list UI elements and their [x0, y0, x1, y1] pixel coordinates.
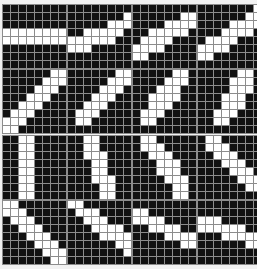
pattern-cell	[124, 160, 131, 167]
pattern-cell	[68, 110, 75, 117]
pattern-cell	[133, 217, 140, 224]
pattern-cell	[189, 86, 196, 93]
pattern-cell	[124, 209, 131, 216]
pattern-cell	[206, 94, 213, 101]
pattern-cell	[173, 110, 180, 117]
pattern-cell	[206, 168, 213, 175]
pattern-cell	[238, 209, 245, 216]
pattern-cell	[19, 5, 26, 12]
pattern-cell	[246, 233, 253, 240]
pattern-cell	[198, 37, 205, 44]
pattern-cell	[165, 70, 172, 77]
pattern-cell	[108, 21, 115, 28]
pattern-cell	[214, 86, 221, 93]
pattern-cell	[108, 152, 115, 159]
pattern-cell	[3, 118, 10, 125]
pattern-cell	[27, 192, 34, 199]
pattern-cell	[181, 136, 188, 143]
pattern-cell	[100, 257, 107, 264]
pattern-cell	[133, 5, 140, 12]
pattern-cell	[198, 233, 205, 240]
pattern-cell	[76, 249, 83, 256]
pattern-cell	[189, 168, 196, 175]
pattern-cell	[206, 126, 213, 133]
pattern-cell	[181, 86, 188, 93]
pattern-cell	[254, 53, 257, 60]
pattern-cell	[189, 192, 196, 199]
pattern-cell	[181, 118, 188, 125]
pattern-cell	[246, 241, 253, 248]
pattern-cell	[84, 126, 91, 133]
pattern-cell	[214, 70, 221, 77]
pattern-cell	[11, 225, 18, 232]
pattern-cell	[230, 233, 237, 240]
pattern-cell	[206, 225, 213, 232]
pattern-cell	[133, 136, 140, 143]
filter-bank-grid	[0, 0, 257, 269]
pattern-cell	[165, 209, 172, 216]
pattern-cell	[92, 257, 99, 264]
pattern-cell	[68, 53, 75, 60]
pattern-cell	[11, 21, 18, 28]
pattern-cell	[149, 45, 156, 52]
pattern-cell	[222, 29, 229, 36]
pattern-cell	[230, 102, 237, 109]
pattern-cell	[173, 70, 180, 77]
pattern-cell	[116, 136, 123, 143]
pattern-cell	[11, 118, 18, 125]
pattern-cell	[43, 45, 50, 52]
pattern-cell	[76, 118, 83, 125]
pattern-cell	[76, 144, 83, 151]
pattern-cell	[124, 168, 131, 175]
pattern-cell	[198, 201, 205, 208]
pattern-cell	[157, 136, 164, 143]
pattern-cell	[35, 70, 42, 77]
pattern-cell	[116, 13, 123, 20]
pattern-cell	[173, 160, 180, 167]
pattern-cell	[68, 13, 75, 20]
pattern-cell	[230, 53, 237, 60]
pattern-cell	[51, 78, 58, 85]
pattern-cell	[222, 168, 229, 175]
pattern-cell	[116, 61, 123, 68]
pattern-cell	[84, 94, 91, 101]
pattern-cell	[141, 152, 148, 159]
pattern-cell	[165, 184, 172, 191]
pattern-cell	[141, 257, 148, 264]
pattern-cell	[173, 241, 180, 248]
pattern-cell	[246, 13, 253, 20]
pattern-cell	[141, 225, 148, 232]
pattern-cell	[92, 217, 99, 224]
pattern-cell	[19, 168, 26, 175]
pattern-cell	[238, 29, 245, 36]
pattern-cell	[141, 176, 148, 183]
pattern-cell	[173, 249, 180, 256]
pattern-cell	[84, 29, 91, 36]
pattern-cell	[133, 144, 140, 151]
pattern-cell	[27, 144, 34, 151]
pattern-cell	[76, 201, 83, 208]
pattern-cell	[165, 176, 172, 183]
pattern-cell	[206, 102, 213, 109]
pattern-cell	[254, 217, 257, 224]
pattern-cell	[19, 102, 26, 109]
pattern-cell	[76, 45, 83, 52]
pattern-cell	[133, 110, 140, 117]
pattern-cell	[198, 168, 205, 175]
pattern-cell	[198, 192, 205, 199]
pattern-cell	[92, 225, 99, 232]
pattern-cell	[68, 136, 75, 143]
pattern-cell	[173, 126, 180, 133]
pattern-cell	[149, 110, 156, 117]
pattern-cell	[35, 13, 42, 20]
pattern-cell	[43, 37, 50, 44]
pattern-cell	[230, 249, 237, 256]
pattern-cell	[173, 225, 180, 232]
pattern-cell	[246, 29, 253, 36]
pattern-cell	[254, 37, 257, 44]
pattern-cell	[149, 29, 156, 36]
pattern-cell	[35, 94, 42, 101]
pattern-cell	[84, 86, 91, 93]
pattern-cell	[181, 37, 188, 44]
pattern-cell	[92, 168, 99, 175]
